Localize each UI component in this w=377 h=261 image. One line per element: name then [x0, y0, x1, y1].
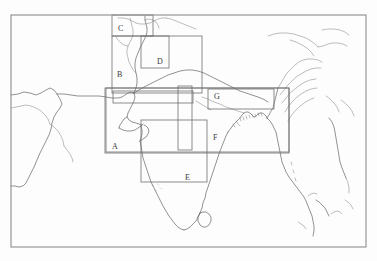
- roi-label-B: B: [117, 71, 123, 79]
- roi-box-vertical-band[interactable]: [178, 86, 192, 150]
- map-frame: [11, 15, 366, 247]
- roi-label-A: A: [112, 143, 118, 151]
- coastline-group: [11, 16, 354, 236]
- roi-box-E[interactable]: [141, 120, 207, 182]
- roi-label-F: F: [213, 134, 218, 142]
- roi-box-D[interactable]: [141, 36, 169, 68]
- region-of-interest-map: C B D G A F E: [0, 0, 377, 261]
- roi-label-E: E: [185, 174, 190, 182]
- roi-label-G: G: [214, 93, 220, 101]
- map-canvas: [0, 0, 377, 261]
- roi-label-C: C: [118, 25, 124, 33]
- roi-box-A[interactable]: [105, 88, 289, 153]
- roi-label-D: D: [157, 58, 163, 66]
